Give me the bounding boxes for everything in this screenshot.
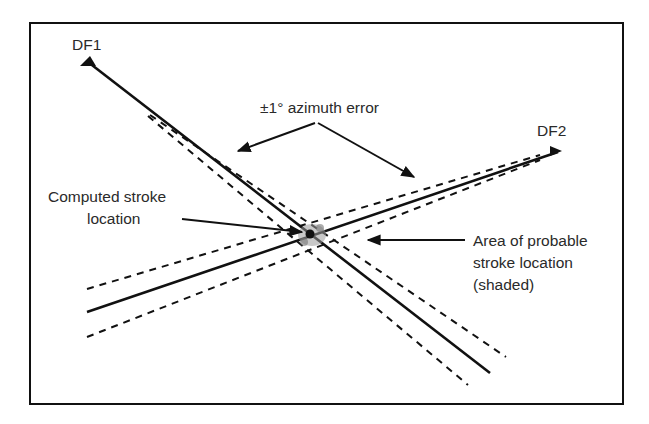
probable-area-label-line1: Area of probable <box>473 230 588 251</box>
df2-station-icon <box>550 146 562 156</box>
computed-location-label-line2: location <box>87 208 140 229</box>
azimuth-error-label: ±1° azimuth error <box>260 97 379 118</box>
computed-location-label-line1: Computed stroke <box>48 186 166 207</box>
probable-area-label-line3: (shaded) <box>473 274 534 295</box>
df1-station-icon <box>80 56 96 66</box>
azimuth-error-arrow-right <box>318 123 414 177</box>
probable-area-label-line2: stroke location <box>473 252 573 273</box>
df2-label: DF2 <box>537 120 566 141</box>
df1-label: DF1 <box>72 34 101 55</box>
probable-area-shading <box>298 224 326 246</box>
azimuth-error-arrow-left <box>238 123 315 151</box>
computed-location-arrow <box>182 219 302 232</box>
